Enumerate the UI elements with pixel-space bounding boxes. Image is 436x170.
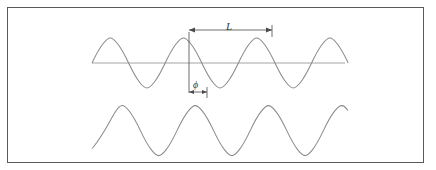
- phase-shift-label: ϕ: [193, 80, 198, 90]
- figure-root: L ϕ: [0, 0, 436, 170]
- wavelength-arrow-left-icon: [189, 28, 195, 33]
- lower-wave: [92, 106, 348, 156]
- wavelength-arrow-right-icon: [266, 28, 272, 33]
- phase-shift-arrow-left-icon: [189, 90, 194, 94]
- wave-diagram: [0, 0, 436, 170]
- wavelength-label: L: [226, 21, 232, 32]
- phase-shift-arrow-right-icon: [202, 90, 207, 94]
